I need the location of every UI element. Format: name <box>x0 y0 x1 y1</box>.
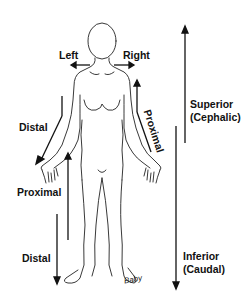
label-distal-arm: Distal <box>19 121 48 133</box>
label-superior-alt: (Cephalic) <box>190 111 241 123</box>
label-inferior-alt: (Caudal) <box>183 263 225 275</box>
head-outline <box>88 23 116 59</box>
label-left: Left <box>59 49 78 61</box>
label-proximal-leg: Proximal <box>17 186 61 198</box>
label-right: Right <box>123 49 150 61</box>
label-superior: Superior <box>190 98 233 110</box>
anatomy-diagram: Left Right Distal Proximal Proximal Dist… <box>0 0 251 305</box>
label-distal-leg: Distal <box>22 252 51 264</box>
label-inferior: Inferior <box>183 250 219 262</box>
